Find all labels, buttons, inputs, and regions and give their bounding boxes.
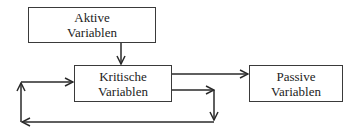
diagram-canvas: Aktive Variablen Kritische Variablen Pas… [0,0,356,135]
node-label-line2: Variablen [67,25,117,40]
node-label-line2: Variablen [271,84,321,99]
node-label-line1: Passive [277,69,316,84]
node-aktive-variablen: Aktive Variablen [28,7,156,43]
node-label-line1: Aktive [74,10,109,25]
node-passive-variablen: Passive Variablen [249,65,343,102]
node-label-line1: Kritische [99,69,147,84]
node-label-line2: Variablen [98,84,148,99]
node-kritische-variablen: Kritische Variablen [74,65,172,102]
